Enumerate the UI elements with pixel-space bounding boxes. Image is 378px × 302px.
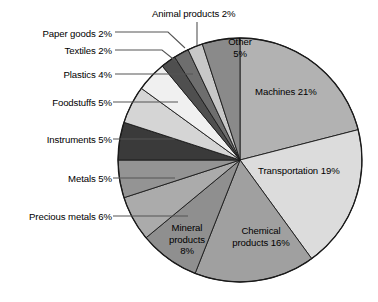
label-plastics: Plastics 4% [8, 69, 112, 80]
label-instruments: Instruments 5% [0, 134, 112, 145]
pie-chart-figure: Paper goods 2% Textiles 2% Plastics 4% F… [0, 0, 378, 302]
label-mineral-line2: products [169, 234, 205, 245]
label-other: Other 5% [218, 36, 262, 59]
label-foodstuffs: Foodstuffs 5% [4, 97, 112, 108]
leader-line-paper-goods [115, 32, 185, 48]
label-transportation: Transportation 19% [258, 165, 340, 177]
label-mineral-products: Mineral products 8% [158, 222, 216, 257]
label-paper-goods: Paper goods 2% [8, 28, 112, 39]
label-chemical-line2: products 16% [232, 237, 289, 248]
label-textiles: Textiles 2% [8, 45, 112, 56]
label-animal-products: Animal products 2% [152, 8, 236, 19]
label-chemical-products: Chemical products 16% [215, 225, 307, 248]
label-chemical-line1: Chemical [241, 225, 280, 236]
label-precious-metals: Precious metals 6% [0, 211, 112, 222]
label-other-line1: Other [228, 36, 252, 47]
label-other-line2: 5% [233, 48, 247, 59]
label-mineral-line3: 8% [180, 245, 194, 256]
label-metals: Metals 5% [0, 173, 112, 184]
leader-line-textiles [115, 50, 177, 62]
label-mineral-line1: Mineral [172, 222, 203, 233]
label-machines: Machines 21% [255, 86, 317, 98]
